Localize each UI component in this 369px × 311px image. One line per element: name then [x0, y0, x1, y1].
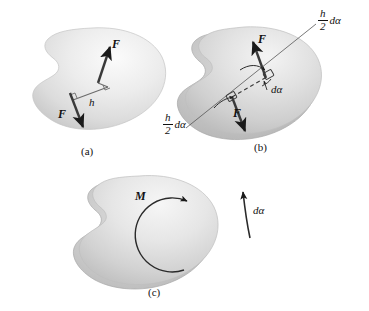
panel-c-dalpha-arrow [243, 192, 250, 238]
panel-b-arc-top-denominator: 2 [318, 20, 328, 33]
panel-c-caption: (c) [148, 287, 160, 298]
panel-b-arc-bottom-label: h 2 dα [163, 112, 186, 136]
panel-b-arc-top-label: h 2 dα [318, 8, 341, 32]
panel-a-caption: (a) [81, 146, 93, 157]
panel-c-group [73, 176, 250, 289]
panel-b-arc-top-tail: dα [330, 15, 341, 26]
panel-c-body-shape [79, 176, 218, 285]
panel-b-arc-bottom-tail: dα [175, 119, 186, 130]
panel-b-caption: (b) [254, 142, 267, 153]
panel-a-force-top-label: F [112, 38, 120, 50]
panel-a-group [33, 28, 166, 130]
panel-a-distance-label: h [89, 97, 95, 108]
panel-c-moment-label: M [135, 190, 146, 202]
panel-b-arc-bottom-denominator: 2 [163, 124, 173, 137]
panel-b-arc-top-numerator: h [318, 8, 328, 20]
panel-b-arc-bottom-numerator: h [163, 112, 173, 124]
panel-b-force-bottom-label: F [233, 107, 241, 119]
mechanics-couple-figure: F F h (a) F F dα h 2 dα h 2 dα (b) M dα … [0, 0, 369, 311]
panel-a-force-bottom-label: F [58, 108, 66, 120]
panel-c-angle-label: dα [253, 205, 264, 216]
panel-b-group [177, 24, 321, 140]
panel-b-force-top-label: F [258, 33, 266, 45]
panel-b-angle-label: dα [271, 84, 282, 95]
figure-svg [0, 0, 369, 311]
